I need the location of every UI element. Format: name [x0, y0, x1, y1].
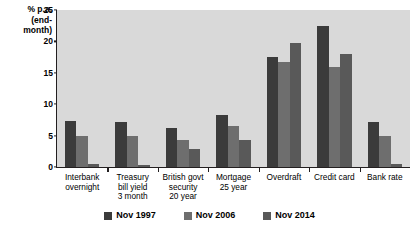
- bar: [317, 26, 329, 167]
- bar: [379, 136, 391, 167]
- x-axis-tick-mark: [107, 167, 108, 172]
- bar: [177, 140, 189, 167]
- legend-label: Nov 2014: [275, 211, 315, 220]
- legend: Nov 1997Nov 2006Nov 2014: [0, 211, 419, 220]
- legend-item: Nov 1997: [104, 211, 156, 220]
- bar: [65, 121, 77, 167]
- x-axis-tick-mark: [208, 167, 209, 172]
- legend-item: Nov 2014: [263, 211, 315, 220]
- bar-chart: % p.a. (end- month) 0510152025 Interbank…: [0, 0, 419, 236]
- legend-label: Nov 2006: [196, 211, 236, 220]
- legend-swatch: [104, 212, 112, 220]
- bar: [278, 62, 290, 167]
- bar: [88, 164, 100, 167]
- bar: [138, 165, 150, 168]
- bar: [115, 122, 127, 167]
- bar: [239, 140, 251, 167]
- bar: [228, 126, 240, 167]
- bar-group: [107, 10, 157, 167]
- legend-label: Nov 1997: [116, 211, 156, 220]
- x-axis-tick-mark: [259, 167, 260, 172]
- bar-group: [309, 10, 359, 167]
- bar: [290, 43, 302, 167]
- bar-group: [259, 10, 309, 167]
- bar: [329, 67, 341, 167]
- bar: [267, 57, 279, 167]
- bar: [340, 54, 352, 167]
- x-axis-tick-mark: [158, 167, 159, 172]
- bar-group: [208, 10, 258, 167]
- legend-swatch: [184, 212, 192, 220]
- bar-group: [158, 10, 208, 167]
- legend-item: Nov 2006: [184, 211, 236, 220]
- bars-layer: [57, 10, 410, 167]
- legend-swatch: [263, 212, 271, 220]
- bar: [368, 122, 380, 167]
- category-label: Bank rate: [354, 173, 416, 183]
- bar-group: [360, 10, 410, 167]
- bar: [216, 115, 228, 167]
- bar-group: [57, 10, 107, 167]
- bar: [76, 136, 88, 167]
- x-axis-tick-mark: [309, 167, 310, 172]
- bar: [189, 149, 201, 167]
- bar: [391, 164, 403, 167]
- x-axis-tick-mark: [360, 167, 361, 172]
- bar: [127, 136, 139, 167]
- bar: [166, 128, 178, 167]
